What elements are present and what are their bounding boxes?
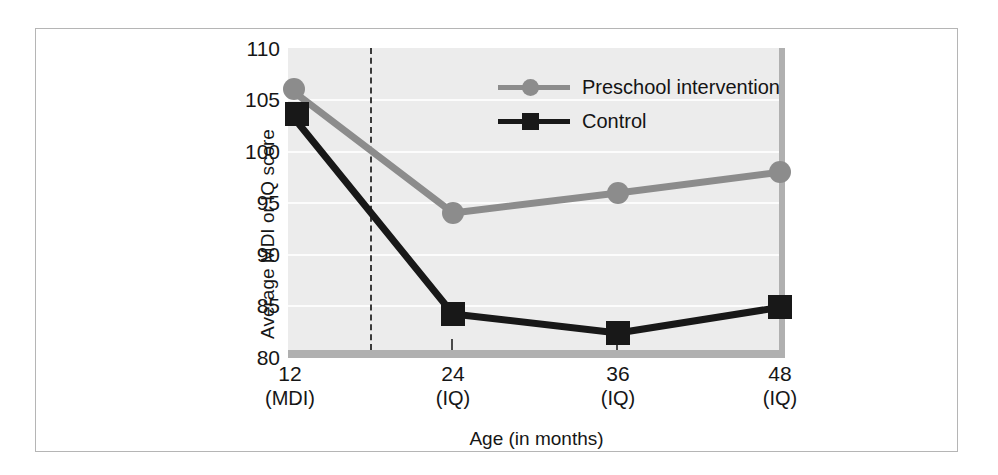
data-point-preschool-24 bbox=[442, 202, 464, 224]
y-tick-100: 100 bbox=[228, 141, 280, 162]
x-axis-title: Age (in months) bbox=[288, 428, 785, 450]
x-tick-36-sublabel: (IQ) bbox=[558, 386, 678, 410]
legend-item-control: Control bbox=[498, 104, 768, 138]
x-tick-36-value: 36 bbox=[558, 362, 678, 386]
data-point-control-12 bbox=[285, 102, 309, 126]
x-tick-12-value: 12 bbox=[230, 362, 350, 386]
data-point-control-24 bbox=[441, 302, 465, 326]
x-axis-ticks: 12 (MDI) 24 (IQ) 36 (IQ) 48 (IQ) bbox=[288, 362, 785, 432]
x-tick-24: 24 (IQ) bbox=[393, 362, 513, 410]
data-point-preschool-12 bbox=[283, 78, 305, 100]
y-tick-90: 90 bbox=[228, 244, 280, 265]
x-tick-24-sublabel: (IQ) bbox=[393, 386, 513, 410]
data-point-control-48 bbox=[768, 295, 792, 319]
circle-marker-icon bbox=[522, 79, 539, 96]
x-tick-48-value: 48 bbox=[720, 362, 840, 386]
chart-canvas: Average MDI or IQ score 110 105 100 95 9… bbox=[0, 0, 998, 475]
x-tick-48-sublabel: (IQ) bbox=[720, 386, 840, 410]
x-tick-48: 48 (IQ) bbox=[720, 362, 840, 410]
x-tick-12-sublabel: (MDI) bbox=[230, 386, 350, 410]
legend-swatch-control bbox=[498, 110, 570, 132]
y-tick-110: 110 bbox=[228, 38, 280, 59]
y-tick-85: 85 bbox=[228, 295, 280, 316]
x-tick-36: 36 (IQ) bbox=[558, 362, 678, 410]
y-axis-ticks: 110 105 100 95 90 85 80 bbox=[222, 48, 280, 358]
data-point-preschool-36 bbox=[607, 182, 629, 204]
legend-swatch-preschool-intervention bbox=[498, 76, 570, 98]
data-point-control-36 bbox=[606, 321, 630, 345]
x-tick-12: 12 (MDI) bbox=[230, 362, 350, 410]
x-tick-24-value: 24 bbox=[393, 362, 513, 386]
data-point-preschool-48 bbox=[769, 161, 791, 183]
legend-item-preschool-intervention: Preschool intervention bbox=[498, 70, 768, 104]
y-axis-title-host: Average MDI or IQ score bbox=[205, 48, 206, 358]
chart-figure: Average MDI or IQ score 110 105 100 95 9… bbox=[0, 0, 998, 475]
chart-legend: Preschool intervention Control bbox=[498, 70, 768, 138]
y-tick-95: 95 bbox=[228, 192, 280, 213]
legend-label-preschool-intervention: Preschool intervention bbox=[570, 76, 780, 99]
y-tick-105: 105 bbox=[228, 89, 280, 110]
legend-label-control: Control bbox=[570, 110, 646, 133]
square-marker-icon bbox=[522, 113, 539, 130]
